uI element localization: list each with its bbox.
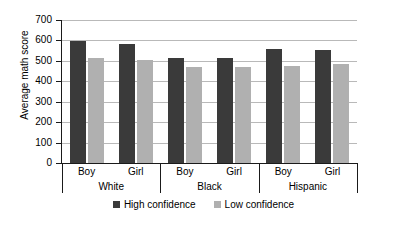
x-axis-line <box>61 163 357 164</box>
bar <box>186 67 202 163</box>
bar <box>70 41 86 163</box>
legend-swatch-icon <box>214 201 221 208</box>
bar <box>119 44 135 164</box>
y-tick-label: 500 <box>18 56 52 66</box>
y-tick-label: 700 <box>18 15 52 25</box>
subgroup-label: Boy <box>160 165 210 178</box>
y-tick-label: 200 <box>18 117 52 127</box>
bar-chart: Average math score 010020030040050060070… <box>0 0 407 225</box>
y-tick-label: 100 <box>18 138 52 148</box>
y-tick-label: 600 <box>18 35 52 45</box>
group-label: Hispanic <box>268 180 348 193</box>
subgroup-label: Girl <box>111 165 161 178</box>
bar <box>284 66 300 163</box>
bar <box>217 58 233 163</box>
bar <box>137 60 153 163</box>
chart-legend: High confidenceLow confidence <box>0 199 407 210</box>
plot-area <box>62 20 357 163</box>
group-label: White <box>71 180 151 193</box>
legend-item: Low confidence <box>214 199 295 210</box>
subgroup-label: Boy <box>62 165 112 178</box>
bar <box>168 58 184 163</box>
y-tick-label: 300 <box>18 97 52 107</box>
bar <box>88 58 104 163</box>
subgroup-label: Boy <box>258 165 308 178</box>
y-tick-label: 0 <box>18 158 52 168</box>
bar <box>333 64 349 163</box>
group-label: Black <box>170 180 250 193</box>
subgroup-label: Girl <box>209 165 259 178</box>
legend-swatch-icon <box>113 201 120 208</box>
legend-label: Low confidence <box>225 199 295 210</box>
bar <box>235 67 251 163</box>
bar <box>266 49 282 163</box>
legend-item: High confidence <box>113 199 196 210</box>
y-tick-label: 400 <box>18 76 52 86</box>
subgroup-label: Girl <box>307 165 357 178</box>
bar <box>315 50 331 163</box>
legend-label: High confidence <box>124 199 196 210</box>
